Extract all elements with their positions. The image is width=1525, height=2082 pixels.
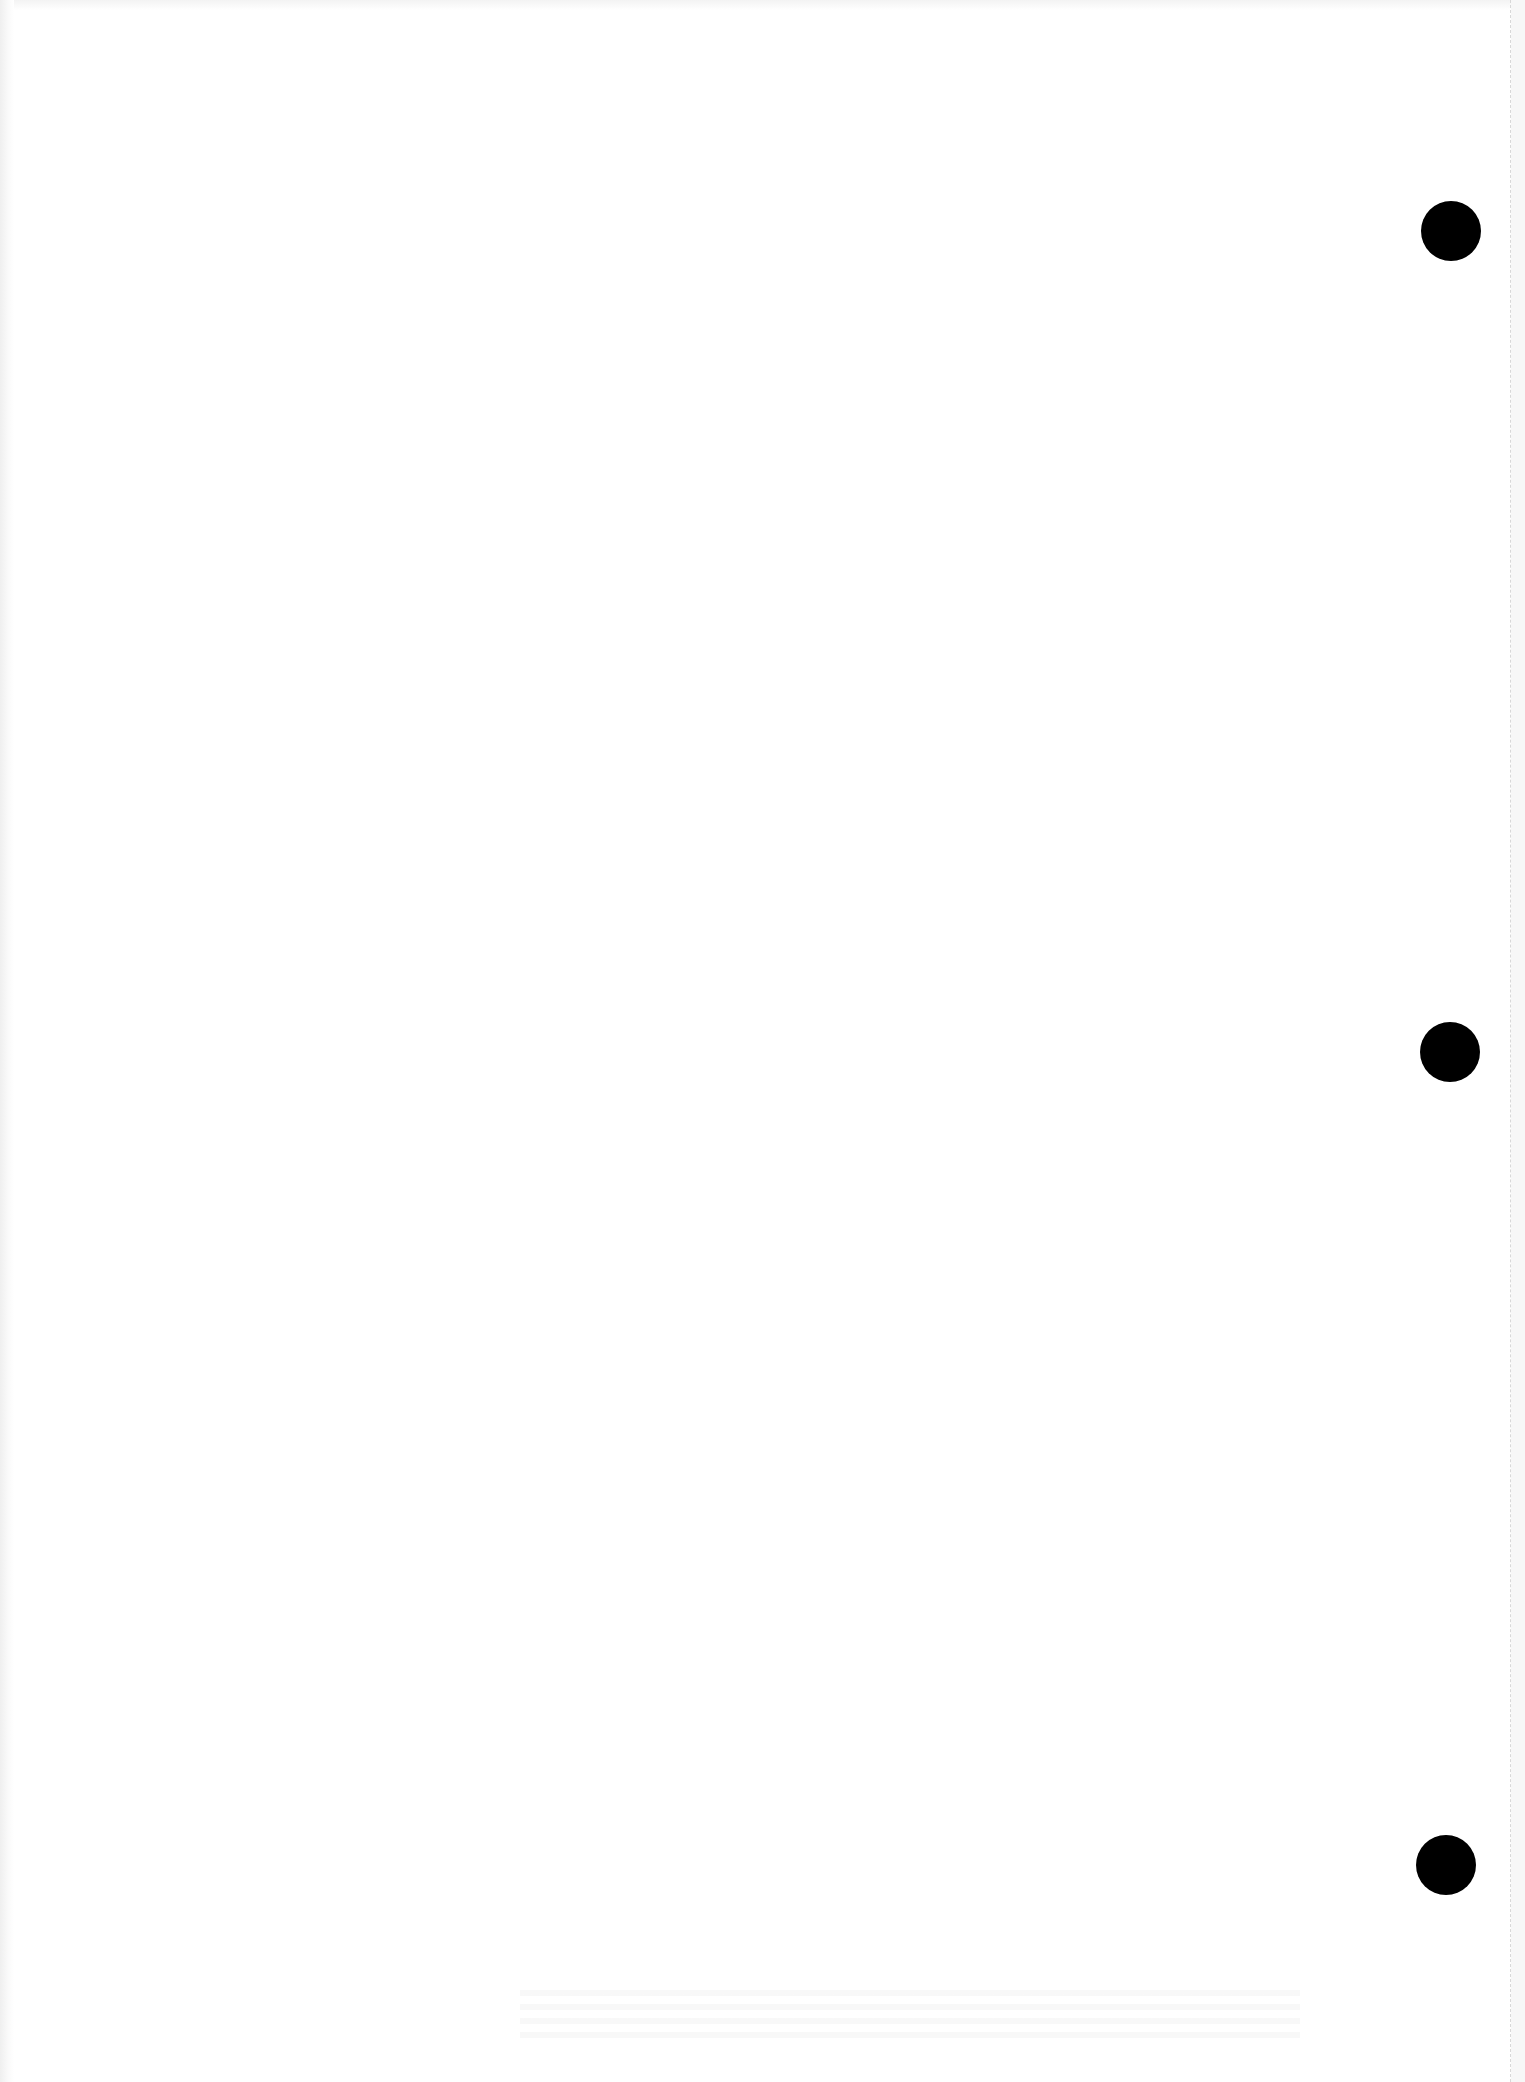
scan-left-edge-shadow <box>0 0 14 2082</box>
reverse-side-bleed-through <box>520 1990 1300 2040</box>
scan-top-edge-shadow <box>0 0 1525 10</box>
blank-document-page <box>0 0 1525 2082</box>
dashed-edge-line <box>1510 0 1511 2082</box>
right-margin-strip <box>1511 0 1525 2082</box>
punch-hole-top <box>1421 201 1481 261</box>
punch-hole-bottom <box>1416 1835 1476 1895</box>
punch-hole-middle <box>1420 1022 1480 1082</box>
